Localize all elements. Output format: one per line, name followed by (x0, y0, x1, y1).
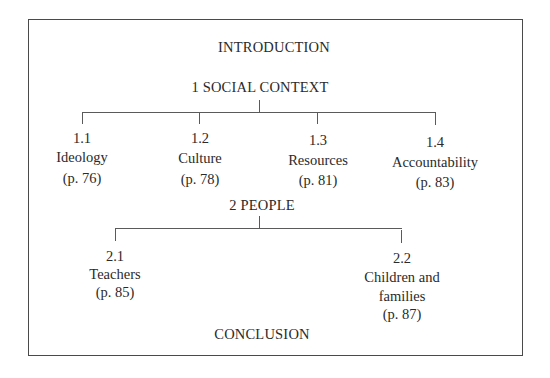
node-1-2-page: (p. 78) (181, 172, 220, 187)
branch-2-1-drop (115, 228, 116, 241)
branch-2-2-drop (401, 230, 402, 243)
section-2-title: 2 PEOPLE (229, 198, 295, 213)
branch-1-4-drop (435, 113, 436, 125)
node-1-4-name: Accountability (392, 155, 478, 170)
node-2-1-number: 2.1 (106, 249, 124, 264)
node-2-2-number: 2.2 (393, 251, 411, 266)
branch-1-2-drop (199, 112, 200, 124)
node-2-1-page: (p. 85) (96, 285, 135, 300)
node-1-3-number: 1.3 (309, 133, 327, 148)
section-1-title: 1 SOCIAL CONTEXT (191, 80, 328, 95)
node-1-1-name: Ideology (56, 150, 108, 165)
node-1-4-page: (p. 83) (416, 175, 455, 190)
node-1-2-number: 1.2 (191, 131, 209, 146)
node-1-1-number: 1.1 (73, 131, 91, 146)
node-1-3-name: Resources (288, 153, 348, 168)
section-1-branch-bar (82, 112, 436, 113)
section-2-branch-bar (115, 228, 402, 229)
node-2-2-name-line1: Children and (364, 270, 439, 285)
node-1-4-number: 1.4 (426, 135, 444, 150)
node-2-2-page: (p. 87) (383, 307, 422, 322)
node-1-3-page: (p. 81) (299, 173, 338, 188)
node-2-2-name-line2: families (379, 289, 426, 304)
conclusion-label: CONCLUSION (214, 327, 309, 342)
introduction-label: INTRODUCTION (218, 40, 330, 55)
section-2-stem (259, 216, 260, 228)
node-2-1-name: Teachers (89, 267, 140, 282)
node-1-2-name: Culture (178, 151, 222, 166)
node-1-1-page: (p. 76) (63, 171, 102, 186)
branch-1-3-drop (317, 112, 318, 124)
branch-1-1-drop (82, 112, 83, 124)
